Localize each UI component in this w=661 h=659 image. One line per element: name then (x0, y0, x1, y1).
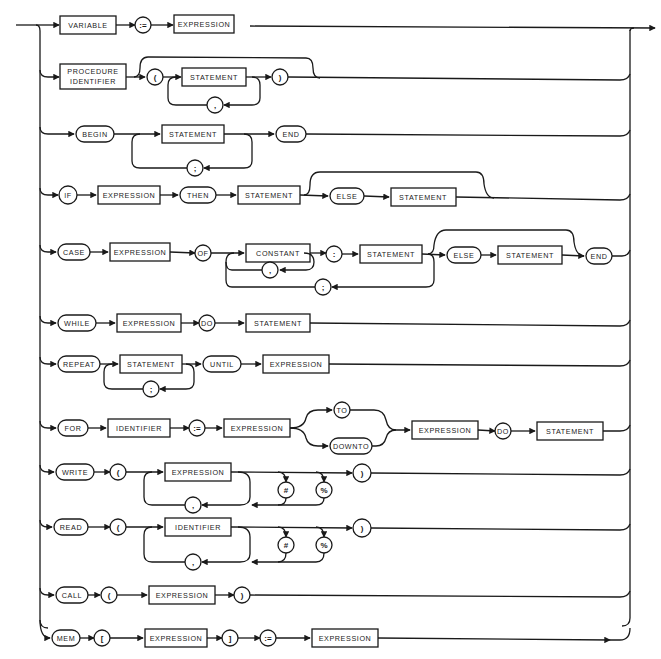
svg-text::=: := (264, 634, 272, 643)
svg-text:EXPRESSION: EXPRESSION (270, 360, 323, 369)
row-write: WRITE ( EXPRESSION # % , ) (40, 463, 630, 513)
svg-text:WHILE: WHILE (64, 319, 90, 328)
svg-text:ELSE: ELSE (454, 251, 475, 260)
svg-text:STATEMENT: STATEMENT (169, 130, 217, 139)
svg-text:;: ; (150, 385, 153, 394)
svg-text:;: ; (322, 283, 325, 292)
svg-text:WRITE: WRITE (62, 468, 88, 477)
svg-text:EXPRESSION: EXPRESSION (419, 426, 472, 435)
svg-text:DOWNTO: DOWNTO (333, 442, 369, 451)
svg-text:REPEAT: REPEAT (63, 360, 95, 369)
svg-text:,: , (192, 501, 194, 510)
svg-text:(: ( (117, 523, 120, 532)
svg-text:EXPRESSION: EXPRESSION (123, 319, 176, 328)
svg-text:FOR: FOR (65, 424, 82, 433)
svg-text:(: ( (117, 468, 120, 477)
svg-text:STATEMENT: STATEMENT (190, 73, 238, 82)
svg-text:EXPRESSION: EXPRESSION (103, 191, 156, 200)
row-case: CASE EXPRESSION OF CONSTANT , : STATEMEN… (40, 230, 630, 295)
svg-text:EXPRESSION: EXPRESSION (231, 424, 284, 433)
svg-text:IDENTIFIER: IDENTIFIER (70, 77, 116, 86)
svg-text:IDENTIFIER: IDENTIFIER (175, 523, 221, 532)
svg-text:OF: OF (197, 249, 208, 258)
svg-text:EXPRESSION: EXPRESSION (319, 634, 372, 643)
svg-text::=: := (139, 21, 147, 30)
svg-text:ELSE: ELSE (337, 192, 358, 201)
svg-text:STATEMENT: STATEMENT (546, 427, 594, 436)
row-assignment: VARIABLE := EXPRESSION (44, 15, 234, 34)
svg-text:EXPRESSION: EXPRESSION (156, 591, 209, 600)
svg-text:MEM: MEM (57, 634, 76, 643)
svg-text:EXPRESSION: EXPRESSION (172, 468, 225, 477)
svg-text:(: ( (154, 73, 157, 82)
svg-text:STATEMENT: STATEMENT (367, 250, 415, 259)
svg-text::=: := (193, 424, 201, 433)
svg-text:STATEMENT: STATEMENT (245, 191, 293, 200)
svg-text:EXPRESSION: EXPRESSION (178, 20, 231, 29)
svg-text:TO: TO (336, 406, 347, 415)
svg-text:END: END (591, 252, 608, 261)
svg-text:EXPRESSION: EXPRESSION (150, 634, 203, 643)
svg-text:#: # (284, 541, 289, 550)
svg-text:CONSTANT: CONSTANT (256, 249, 300, 258)
syntax-diagram: VARIABLE := EXPRESSION PROCEDURE IDENTIF… (0, 0, 661, 659)
svg-text:#: # (284, 486, 289, 495)
svg-text:DO: DO (201, 319, 213, 328)
svg-text:): ) (279, 73, 282, 82)
svg-text:THEN: THEN (187, 191, 209, 200)
svg-text:CASE: CASE (63, 248, 85, 257)
svg-text:UNTIL: UNTIL (210, 360, 234, 369)
svg-text:DO: DO (497, 427, 509, 436)
row-compound: BEGIN STATEMENT ; END (40, 125, 630, 176)
svg-text:STATEMENT: STATEMENT (399, 193, 447, 202)
svg-text:;: ; (194, 164, 197, 173)
svg-text:%: % (320, 541, 327, 550)
svg-text:IF: IF (64, 191, 72, 200)
svg-text:IDENTIFIER: IDENTIFIER (116, 424, 162, 433)
svg-text:END: END (283, 130, 300, 139)
svg-text:CALL: CALL (62, 591, 82, 600)
svg-text:PROCEDURE: PROCEDURE (67, 67, 118, 76)
svg-text:): ) (361, 469, 364, 478)
svg-text:): ) (241, 591, 244, 600)
svg-text:STATEMENT: STATEMENT (127, 360, 175, 369)
row-read: READ ( IDENTIFIER # % , ) (40, 518, 630, 570)
svg-text:EXPRESSION: EXPRESSION (114, 248, 167, 257)
svg-text:%: % (320, 486, 327, 495)
svg-text:,: , (269, 266, 271, 275)
svg-text:): ) (361, 524, 364, 533)
svg-text:,: , (214, 101, 216, 110)
row-for: FOR IDENTIFIER := EXPRESSION TO DOWNTO E… (40, 402, 630, 454)
row-mem: MEM [ EXPRESSION ] := EXPRESSION (40, 620, 630, 647)
svg-text:[: [ (101, 634, 104, 643)
svg-text:,: , (192, 558, 194, 567)
row-repeat: REPEAT STATEMENT ; UNTIL EXPRESSION (40, 355, 630, 397)
svg-text::: : (333, 250, 336, 259)
row-while: WHILE EXPRESSION DO STATEMENT (40, 314, 630, 332)
svg-text:STATEMENT: STATEMENT (254, 319, 302, 328)
svg-text:STATEMENT: STATEMENT (506, 251, 554, 260)
row-if: IF EXPRESSION THEN STATEMENT ELSE STATEM… (40, 172, 630, 206)
left-rail (16, 25, 48, 628)
row-procedure-call: PROCEDURE IDENTIFIER ( STATEMENT , ) (40, 57, 630, 113)
svg-text:]: ] (229, 634, 232, 643)
row-call: CALL ( EXPRESSION ) (40, 586, 630, 604)
svg-text:BEGIN: BEGIN (82, 130, 107, 139)
svg-text:READ: READ (60, 523, 82, 532)
label-variable: VARIABLE (68, 21, 107, 30)
svg-text:(: ( (108, 591, 111, 600)
